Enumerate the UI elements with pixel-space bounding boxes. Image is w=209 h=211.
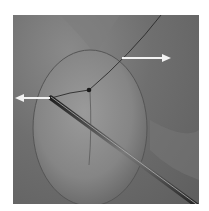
tissue-shadow	[150, 120, 199, 180]
right-traction-arrow	[122, 54, 171, 62]
suture-knot	[87, 88, 92, 93]
surgical-photo	[13, 15, 199, 204]
tissue-fold	[60, 15, 120, 55]
photo-content	[13, 15, 199, 204]
